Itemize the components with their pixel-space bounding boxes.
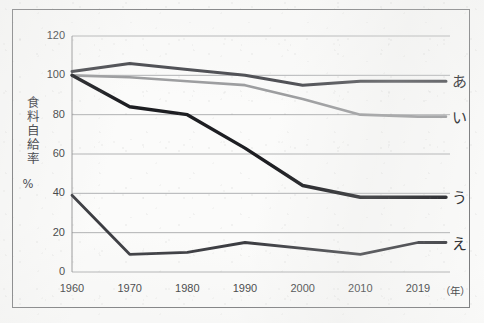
series-label-う: う	[452, 186, 467, 207]
x-tick-label-1990: 1990	[222, 282, 268, 294]
y-tick-label-100: 100	[35, 68, 65, 80]
y-axis-unit-text: %	[23, 177, 34, 191]
y-tick-label-80: 80	[35, 108, 65, 120]
x-tick-label-1970: 1970	[107, 282, 153, 294]
y-tick-label-60: 60	[35, 147, 65, 159]
y-tick-label-40: 40	[35, 186, 65, 198]
x-tick-label-2019: 2019	[395, 282, 441, 294]
x-tick-label-1960: 1960	[49, 282, 95, 294]
chart-outer-frame	[12, 9, 470, 308]
y-tick-label-20: 20	[35, 226, 65, 238]
x-axis-unit-label: （年）	[440, 283, 470, 298]
x-tick-label-2000: 2000	[280, 282, 326, 294]
x-tick-label-2010: 2010	[337, 282, 383, 294]
series-label-え: え	[452, 232, 467, 253]
y-tick-label-0: 0	[35, 265, 65, 277]
series-label-あ: あ	[452, 70, 467, 91]
series-label-い: い	[452, 106, 467, 127]
x-tick-label-1980: 1980	[164, 282, 210, 294]
y-tick-label-120: 120	[35, 29, 65, 41]
chart-page: 食料自給率 % 12010080604020019601970198019902…	[0, 0, 484, 323]
